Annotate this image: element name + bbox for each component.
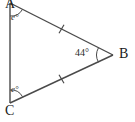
tick-mark-side-ab (59, 25, 64, 34)
vertex-label-b: B (119, 47, 128, 61)
tick-mark-side-cb (59, 75, 64, 84)
vertex-label-c: C (5, 104, 14, 118)
angle-label-c: e° (11, 85, 19, 94)
angle-label-a: e° (11, 13, 19, 22)
angle-label-b: 44° (75, 48, 89, 58)
geometry-diagram: A C B e° e° 44° (0, 0, 135, 122)
angle-arc-b (97, 48, 99, 63)
vertex-label-a: A (5, 0, 15, 11)
triangle-figure (0, 0, 135, 122)
